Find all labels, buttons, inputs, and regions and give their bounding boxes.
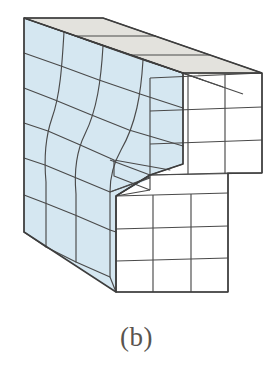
figure-page: (b) bbox=[0, 0, 273, 367]
right-lower-face bbox=[116, 193, 228, 292]
figure-caption: (b) bbox=[0, 322, 273, 353]
mesh-figure bbox=[0, 0, 273, 367]
